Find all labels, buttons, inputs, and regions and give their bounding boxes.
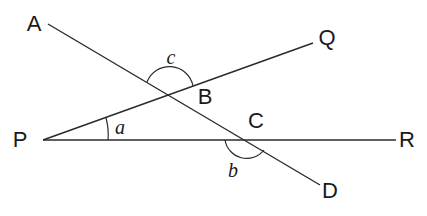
point-label-d: D (322, 180, 338, 202)
point-label-c: C (248, 110, 264, 132)
point-label-p: P (13, 129, 28, 151)
angle-label-c: c (167, 47, 176, 67)
angle-label-b: b (228, 160, 238, 180)
line-pq (43, 43, 313, 140)
angle-c-arc (147, 67, 193, 86)
geometry-diagram: A B C D P Q R a b c (0, 0, 427, 216)
angle-a-arc (106, 118, 108, 140)
angle-label-a: a (115, 117, 125, 137)
line-ad (48, 24, 320, 185)
point-label-r: R (399, 129, 415, 151)
point-label-a: A (27, 13, 42, 35)
diagram-lines (0, 0, 427, 216)
point-label-b: B (198, 86, 213, 108)
point-label-q: Q (318, 27, 335, 49)
